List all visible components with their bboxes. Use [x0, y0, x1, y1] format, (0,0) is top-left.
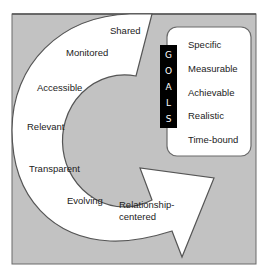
goals-letter-o: O	[165, 66, 172, 76]
goals-letter-a: A	[165, 82, 172, 92]
label-relevant: Relevant	[27, 121, 65, 132]
smart-measurable: Measurable	[188, 63, 238, 74]
label-monitored: Monitored	[66, 47, 108, 58]
goals-letter-l: L	[166, 98, 171, 108]
label-evolving: Evolving	[67, 195, 103, 206]
label-relationship: Relationship-	[119, 199, 174, 210]
label-shared: Shared	[110, 25, 141, 36]
goals-letter-s: S	[166, 114, 172, 124]
smart-specific: Specific	[188, 39, 222, 50]
smart-achievable: Achievable	[188, 87, 234, 98]
smart-time-bound: Time-bound	[188, 134, 238, 145]
goals-letter-g: G	[165, 50, 172, 60]
goals-diagram: Shared Monitored Accessible Relevant Tra…	[0, 0, 268, 274]
label-centered: centered	[119, 211, 156, 222]
label-accessible: Accessible	[37, 82, 82, 93]
label-transparent: Transparent	[29, 163, 80, 174]
smart-realistic: Realistic	[188, 110, 224, 121]
